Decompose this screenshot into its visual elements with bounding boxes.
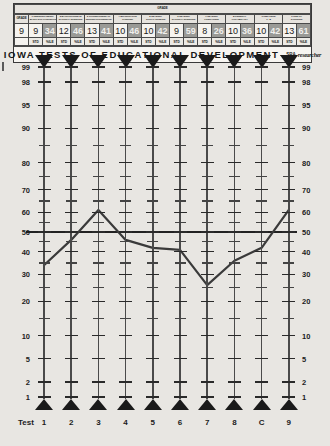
column-tick-major — [92, 105, 105, 106]
column-tick-minor — [147, 318, 158, 319]
column-tick-minor — [66, 222, 77, 223]
y-axis-tick-label-left: 99 — [14, 63, 30, 72]
column-tick-minor — [66, 241, 77, 242]
x-axis-tick-label-4: 4 — [113, 418, 139, 427]
column-tick-major — [92, 335, 105, 336]
column-tick-major — [92, 162, 105, 163]
column-bottom-triangle-icon — [198, 399, 216, 410]
column-tick-major — [119, 381, 132, 382]
y-axis-tick-label-left: 95 — [14, 101, 30, 110]
column-tick-minor — [147, 145, 158, 146]
standard-score-cell: 10 — [226, 24, 240, 38]
column-tick-major — [228, 358, 241, 359]
x-axis-tick-label-1: 1 — [31, 418, 57, 427]
column-tick-major — [255, 381, 268, 382]
column-tick-major — [119, 128, 132, 129]
column-tick-minor — [120, 241, 131, 242]
standard-score-cell: 13 — [85, 24, 99, 38]
std-subheader-cell: STD — [282, 38, 296, 46]
std-subheader-cell: STD — [254, 38, 268, 46]
column-tick-major — [255, 358, 268, 359]
test-column-6 — [167, 55, 193, 415]
column-tick-minor — [175, 241, 186, 242]
column-tick-major — [92, 251, 105, 252]
column-tick-major — [146, 358, 159, 359]
column-tick-minor — [66, 176, 77, 177]
column-tick-minor — [93, 145, 104, 146]
column-tick-minor — [175, 318, 186, 319]
column-tick-major — [174, 396, 187, 397]
column-tick-minor — [229, 262, 240, 263]
column-tick-major — [65, 251, 78, 252]
column-tick-major — [201, 81, 214, 82]
column-tick-major — [65, 301, 78, 302]
column-tick-major — [146, 212, 159, 213]
y-axis-tick-label-left: 10 — [14, 332, 30, 341]
y-axis-tick-label-left: 20 — [14, 297, 30, 306]
x-axis-labels: Test 12345678C9 — [0, 418, 330, 432]
std-subheader-cell: STD — [113, 38, 127, 46]
column-tick-major — [65, 128, 78, 129]
score-table-label-row: GRADE — [15, 5, 311, 14]
column-tick-major — [65, 335, 78, 336]
column-tick-major — [201, 128, 214, 129]
column-tick-minor — [93, 222, 104, 223]
column-tick-major — [38, 251, 51, 252]
subtest-header-cell: 7 READINGLITERATURE — [198, 15, 226, 24]
subtest-header-cell: COMPOSITE1 - 8 — [254, 15, 282, 24]
column-tick-minor — [283, 262, 294, 263]
column-tick-minor — [39, 200, 50, 201]
column-tick-major — [228, 231, 241, 232]
column-tick-major — [92, 66, 105, 67]
pctile-subheader-cell: %ILE — [71, 38, 85, 46]
y-axis-tick-label-left: 40 — [14, 248, 30, 257]
std-subheader-cell: STD — [85, 38, 99, 46]
column-tick-major — [255, 162, 268, 163]
column-tick-minor — [256, 262, 267, 263]
column-tick-minor — [202, 262, 213, 263]
y-axis-tick-label-left: 98 — [14, 78, 30, 87]
column-tick-minor — [256, 145, 267, 146]
column-tick-major — [174, 81, 187, 82]
column-tick-major — [282, 301, 295, 302]
column-tick-minor — [120, 145, 131, 146]
column-tick-major — [38, 81, 51, 82]
column-tick-major — [228, 381, 241, 382]
y-axis-tick-label-right: 98 — [302, 78, 318, 87]
x-axis-tick-label-8: 8 — [221, 418, 247, 427]
column-tick-minor — [283, 145, 294, 146]
column-tick-major — [255, 212, 268, 213]
column-tick-minor — [202, 287, 213, 288]
x-axis-tick-label-C: C — [249, 418, 275, 427]
column-tick-major — [201, 66, 214, 67]
y-axis-tick-label-right: 70 — [302, 186, 318, 195]
y-axis-tick-label-right: 10 — [302, 332, 318, 341]
column-tick-minor — [147, 200, 158, 201]
column-tick-major — [119, 231, 132, 232]
test-column-1 — [31, 55, 57, 415]
y-axis-tick-label-left: 2 — [14, 378, 30, 387]
column-tick-minor — [120, 176, 131, 177]
y-axis-tick-label-left: 5 — [14, 355, 30, 364]
column-tick-major — [201, 274, 214, 275]
pctile-subheader-cell: %ILE — [127, 38, 141, 46]
subtest-header-cell: 2 BACKGROUND INNATURAL SCIENCES — [57, 15, 85, 24]
column-tick-major — [255, 81, 268, 82]
column-tick-major — [119, 335, 132, 336]
column-tick-major — [255, 301, 268, 302]
column-tick-minor — [175, 176, 186, 177]
column-tick-major — [174, 301, 187, 302]
percentile-score-cell: 41 — [99, 24, 113, 38]
column-tick-minor — [283, 287, 294, 288]
column-tick-minor — [229, 222, 240, 223]
column-tick-minor — [229, 241, 240, 242]
column-tick-major — [282, 105, 295, 106]
column-tick-major — [65, 162, 78, 163]
y-axis-tick-label-left: 60 — [14, 208, 30, 217]
column-tick-major — [174, 128, 187, 129]
test-column-7 — [194, 55, 220, 415]
column-tick-major — [38, 66, 51, 67]
column-tick-major — [174, 381, 187, 382]
y-axis-tick-label-left: 50 — [14, 228, 30, 237]
column-tick-minor — [39, 262, 50, 263]
